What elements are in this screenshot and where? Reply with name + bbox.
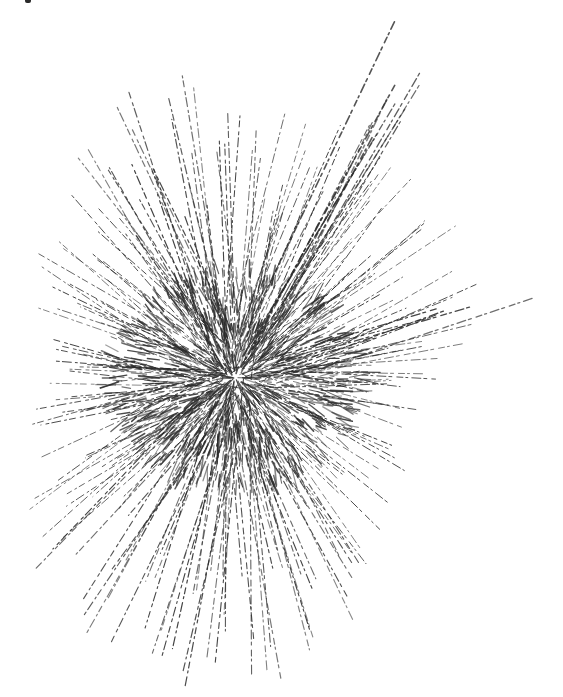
fiber-line	[265, 382, 272, 383]
starburst-figure	[0, 0, 563, 697]
fiber-line	[310, 382, 332, 383]
fiber-line	[169, 376, 186, 377]
fiber-line	[243, 418, 244, 425]
fiber-line	[236, 268, 237, 279]
fiber-line	[233, 381, 234, 393]
fiber-line	[207, 271, 208, 284]
fiber-line	[252, 287, 253, 302]
fiber-line	[237, 300, 238, 313]
fiber-line	[242, 445, 243, 465]
corner-glyph-fragment	[25, 0, 31, 3]
fiber-line	[113, 380, 122, 381]
fiber-line	[105, 393, 120, 394]
fiber-line	[232, 352, 233, 362]
fiber-line	[319, 372, 332, 373]
fiber-line	[299, 376, 309, 377]
fiber-line	[203, 281, 204, 289]
fiber-line	[358, 379, 370, 380]
fiber-line	[336, 386, 345, 387]
fiber-line	[236, 480, 237, 495]
fiber-line	[323, 405, 333, 406]
fiber-line	[198, 375, 217, 376]
fiber-line	[96, 385, 116, 386]
fiber-line	[222, 268, 223, 277]
fiber-line	[278, 365, 286, 366]
starburst-drawing	[0, 0, 563, 697]
fiber-line	[226, 439, 227, 449]
fiber-line	[177, 381, 184, 382]
